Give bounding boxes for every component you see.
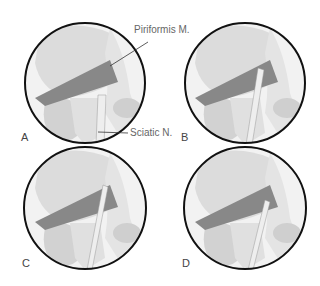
piriformis-label: Piriformis M. (134, 24, 190, 35)
panel-label-a: A (21, 131, 28, 143)
panel-label-d: D (182, 257, 190, 269)
panel-label-b: B (181, 131, 188, 143)
anatomy-figure (0, 0, 320, 286)
sciatic-label: Sciatic N. (130, 127, 172, 138)
panel-label-c: C (22, 257, 30, 269)
